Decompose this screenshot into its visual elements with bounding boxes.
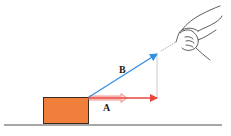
vector-b-label: B (119, 64, 126, 75)
force-diagram: B A (0, 0, 231, 136)
block (44, 98, 89, 124)
vector-b-arrow (89, 54, 157, 97)
hand-icon (176, 6, 222, 60)
rope (161, 42, 176, 51)
vector-a-label: A (103, 102, 111, 113)
